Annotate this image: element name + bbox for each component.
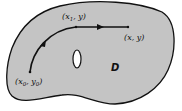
mid-dot — [75, 26, 77, 28]
line-integral-diagram: (x1, y) (x, y) (x0, y0) D — [0, 0, 182, 111]
end-point-label: (x, y) — [124, 33, 144, 42]
start-point-label: (x0, y0) — [15, 77, 42, 87]
region-label: D — [111, 62, 119, 73]
region-d — [7, 2, 174, 104]
end-dot — [127, 26, 129, 28]
start-dot — [29, 71, 32, 74]
hole — [73, 50, 81, 68]
mid-point-label: (x1, y) — [62, 12, 86, 22]
